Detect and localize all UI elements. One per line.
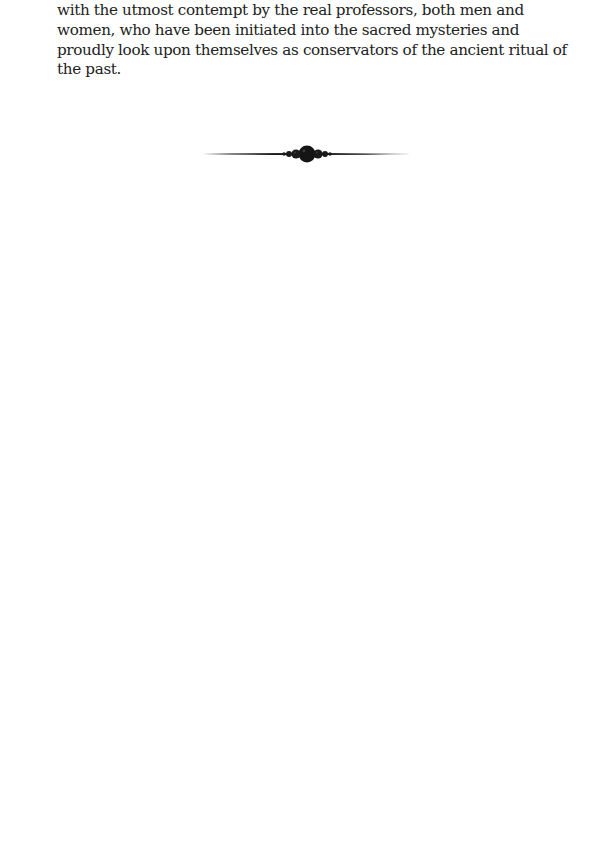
- paragraph-line: women, who have been initiated into the …: [57, 21, 557, 41]
- paragraph-line: the past.: [57, 60, 557, 80]
- paragraph-line: proudly look upon themselves as conserva…: [57, 41, 557, 61]
- document-page: with the utmost contempt by the real pro…: [0, 0, 615, 860]
- paragraph-line: with the utmost contempt by the real pro…: [57, 1, 557, 21]
- section-divider-ornament-icon: [200, 143, 414, 165]
- body-paragraph: with the utmost contempt by the real pro…: [57, 1, 557, 80]
